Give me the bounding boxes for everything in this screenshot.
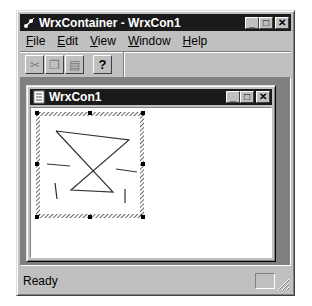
document-canvas[interactable] — [30, 107, 272, 258]
help-icon: ? — [99, 57, 107, 72]
close-icon: ✕ — [259, 92, 267, 102]
close-icon: ✕ — [278, 18, 286, 28]
child-minimize-button[interactable]: _ — [226, 91, 240, 103]
menu-bar: File Edit View Window Help — [20, 32, 291, 50]
help-button[interactable]: ? — [93, 55, 112, 74]
paste-button[interactable]: ▤ — [65, 55, 84, 74]
mdi-client-area: WrxCon1 _ □ ✕ — [20, 77, 291, 266]
document-icon — [32, 90, 46, 104]
cut-icon: ✂ — [30, 58, 40, 72]
menu-edit[interactable]: Edit — [51, 34, 84, 48]
main-window: WrxContainer - WrxCon1 _ □ ✕ File Edit V… — [16, 10, 295, 296]
toolbar-separator — [123, 52, 124, 78]
close-button[interactable]: ✕ — [275, 17, 289, 29]
resize-grip-icon[interactable] — [276, 277, 290, 291]
menu-window[interactable]: Window — [122, 34, 177, 48]
menu-file-label: ile — [33, 34, 45, 48]
menu-help[interactable]: Help — [177, 34, 214, 48]
child-maximize-button[interactable]: □ — [240, 91, 254, 103]
minimize-button[interactable]: _ — [245, 17, 259, 29]
copy-button[interactable]: ❐ — [45, 55, 64, 74]
menu-view-label: iew — [98, 34, 116, 48]
paste-icon: ▤ — [69, 58, 80, 72]
window-title: WrxContainer - WrxCon1 — [39, 16, 245, 30]
menu-view-mnemonic: V — [90, 34, 98, 48]
menu-help-mnemonic: H — [183, 34, 192, 48]
toolbar: ✂ ❐ ▤ ? — [20, 51, 291, 77]
minimize-icon: _ — [230, 92, 236, 102]
menu-file[interactable]: File — [20, 34, 51, 48]
menu-view[interactable]: View — [84, 34, 122, 48]
app-icon — [22, 16, 36, 30]
copy-icon: ❐ — [49, 58, 60, 72]
menu-help-label: elp — [191, 34, 207, 48]
embedded-object-selection[interactable] — [31, 108, 275, 261]
maximize-button[interactable]: □ — [259, 17, 273, 29]
maximize-icon: □ — [263, 18, 269, 28]
maximize-icon: □ — [244, 92, 250, 102]
cut-button[interactable]: ✂ — [25, 55, 44, 74]
menu-window-mnemonic: W — [128, 34, 139, 48]
main-title-bar[interactable]: WrxContainer - WrxCon1 _ □ ✕ — [20, 14, 291, 31]
child-close-button[interactable]: ✕ — [256, 91, 270, 103]
status-bar: Ready — [20, 270, 291, 292]
child-window-title: WrxCon1 — [49, 90, 226, 104]
menu-edit-label: dit — [65, 34, 78, 48]
menu-window-label: indow — [139, 34, 170, 48]
minimize-icon: _ — [249, 18, 255, 28]
status-pane — [255, 273, 275, 289]
status-text: Ready — [20, 274, 58, 288]
child-title-bar[interactable]: WrxCon1 _ □ ✕ — [30, 89, 272, 105]
child-window: WrxCon1 _ □ ✕ — [26, 85, 276, 262]
